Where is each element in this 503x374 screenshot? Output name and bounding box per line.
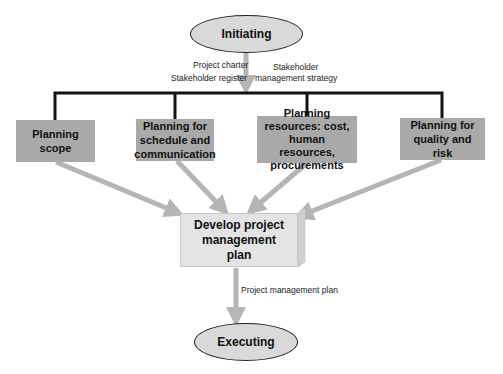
- input-project-charter: Project charter: [193, 60, 248, 71]
- bracket-bar: [55, 93, 442, 122]
- input-stakeholder-register: Stakeholder register: [171, 73, 247, 84]
- develop-box-side: [298, 208, 305, 267]
- input-stakeholder-line1: Stakeholder: [273, 62, 318, 73]
- connector-lines: [0, 0, 503, 374]
- initiating-label: Initiating: [222, 27, 272, 41]
- arrow-schedule-to-develop: [177, 161, 223, 209]
- planning-quality-box: Planning for quality and risk: [400, 118, 485, 160]
- output-label: Project management plan: [241, 285, 338, 296]
- planning-schedule-box: Planning for schedule and communication: [136, 119, 214, 161]
- input-stakeholder-line2: management strategy: [255, 73, 337, 84]
- planning-resources-label: Planning resources: cost, human resource…: [261, 107, 353, 172]
- arrow-scope-to-develop: [56, 162, 176, 212]
- planning-resources-box: Planning resources: cost, human resource…: [257, 116, 357, 163]
- planning-scope-label: Planning scope: [20, 127, 91, 155]
- planning-quality-label: Planning for quality and risk: [404, 118, 481, 160]
- executing-node: Executing: [194, 323, 298, 361]
- executing-label: Executing: [217, 335, 274, 349]
- develop-plan-box: Develop project management plan: [180, 213, 298, 267]
- planning-schedule-label: Planning for schedule and communication: [134, 119, 215, 161]
- initiating-node: Initiating: [190, 15, 303, 53]
- develop-plan-label: Develop project management plan: [181, 218, 297, 263]
- planning-scope-box: Planning scope: [16, 120, 95, 162]
